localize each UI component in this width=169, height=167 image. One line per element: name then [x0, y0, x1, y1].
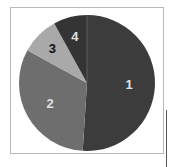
slice-label-1: 1 [126, 77, 133, 92]
slice-label-2: 2 [46, 96, 53, 111]
pie-chart: 1234 [0, 0, 169, 167]
slice-label-3: 3 [49, 41, 56, 56]
pie-slice-1 [83, 15, 155, 151]
slice-label-4: 4 [71, 29, 79, 44]
